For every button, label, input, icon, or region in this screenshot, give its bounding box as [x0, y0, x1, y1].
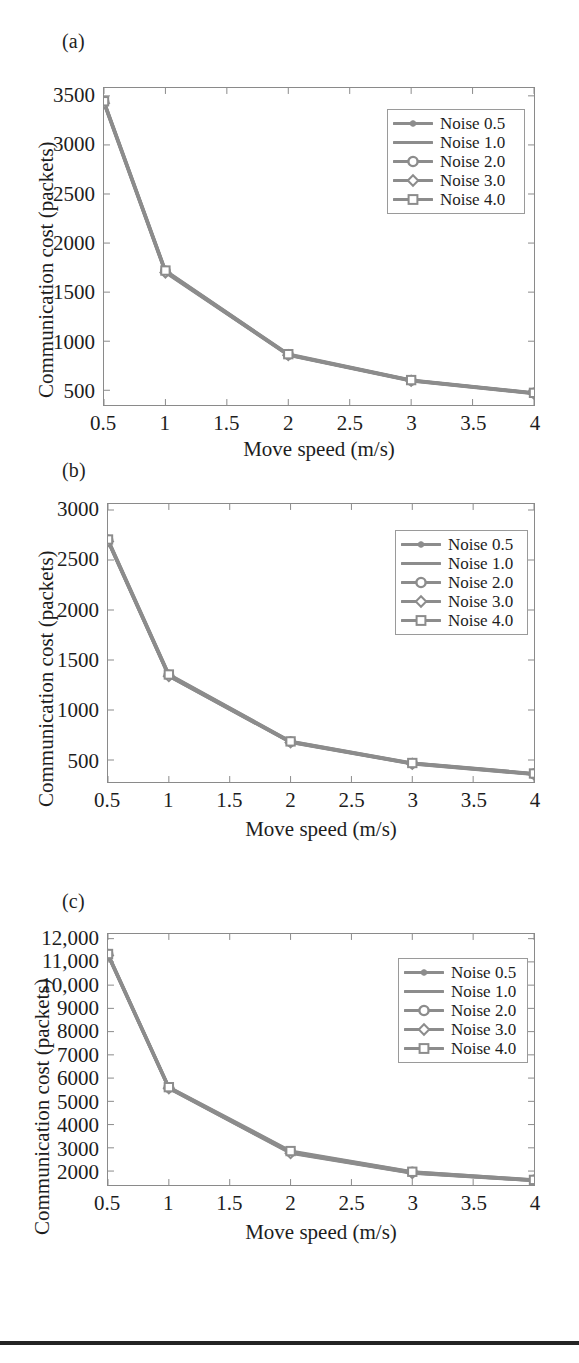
legend-label: Noise 2.0 — [451, 1001, 516, 1020]
y-tick-label: 1000 — [0, 331, 95, 352]
legend-label: Noise 3.0 — [440, 171, 505, 190]
x-tick-label: 1 — [163, 1193, 174, 1214]
y-tick-label: 2000 — [0, 1161, 99, 1182]
legend-item: Noise 1.0 — [401, 554, 521, 573]
x-tick-label: 3 — [406, 413, 417, 434]
y-tick-label: 3000 — [0, 499, 99, 520]
legend-item: Noise 1.0 — [393, 133, 518, 152]
legend-item: Noise 2.0 — [404, 1001, 521, 1020]
x-tick-label: 1 — [163, 790, 174, 811]
y-tick-label: 1500 — [0, 282, 95, 303]
x-tick-label: 1.5 — [216, 1193, 242, 1214]
x-tick-label: 2.5 — [338, 790, 364, 811]
x-tick-label: 2 — [285, 1193, 296, 1214]
legend: Noise 0.5Noise 1.0Noise 2.0Noise 3.0Nois… — [395, 530, 528, 635]
legend-marker-none-icon — [404, 982, 444, 1001]
y-tick-label: 3000 — [0, 1138, 99, 1159]
legend-item: Noise 4.0 — [404, 1039, 521, 1058]
y-tick-label: 2000 — [0, 233, 95, 254]
legend-label: Noise 3.0 — [451, 1020, 516, 1039]
x-tick-label: 3 — [407, 790, 418, 811]
x-tick-label: 0.5 — [94, 1193, 120, 1214]
legend-label: Noise 0.5 — [451, 963, 516, 982]
legend-label: Noise 4.0 — [440, 190, 505, 209]
y-tick-label: 3000 — [0, 134, 95, 155]
legend-label: Noise 0.5 — [440, 114, 505, 133]
y-tick-label: 5000 — [0, 1091, 99, 1112]
chart-panel-c: (c) Communication cost (packets) Move sp… — [0, 890, 579, 1320]
legend-label: Noise 1.0 — [440, 133, 505, 152]
legend-marker-none-icon — [401, 554, 441, 573]
legend-item: Noise 0.5 — [393, 114, 518, 133]
x-tick-label: 1.5 — [213, 413, 239, 434]
x-tick-label: 0.5 — [90, 413, 116, 434]
x-tick-label: 3 — [407, 1193, 418, 1214]
legend: Noise 0.5Noise 1.0Noise 2.0Noise 3.0Nois… — [387, 109, 525, 214]
legend-item: Noise 2.0 — [393, 152, 518, 171]
x-tick-label: 2.5 — [337, 413, 363, 434]
y-tick-label: 2500 — [0, 183, 95, 204]
legend-item: Noise 1.0 — [404, 982, 521, 1001]
y-tick-label: 12,000 — [0, 927, 99, 948]
y-tick-label: 500 — [0, 750, 99, 771]
y-tick-label: 1000 — [0, 700, 99, 721]
legend-item: Noise 2.0 — [401, 573, 521, 592]
legend-marker-diamond-icon — [401, 592, 441, 611]
legend-marker-square-icon — [401, 611, 441, 630]
legend-item: Noise 3.0 — [401, 592, 521, 611]
legend-marker-circle-icon — [401, 573, 441, 592]
legend-marker-square-icon — [393, 190, 433, 209]
x-tick-label: 1 — [159, 413, 170, 434]
x-axis-label-b: Move speed (m/s) — [107, 817, 535, 842]
legend-label: Noise 0.5 — [448, 535, 513, 554]
x-tick-label: 2 — [283, 413, 294, 434]
legend-marker-dot-icon — [401, 535, 441, 554]
y-tick-label: 3500 — [0, 84, 95, 105]
y-tick-label: 1500 — [0, 650, 99, 671]
bottom-rule — [0, 1341, 579, 1345]
x-tick-label: 2.5 — [338, 1193, 364, 1214]
panel-label-c: (c) — [62, 890, 85, 913]
legend-label: Noise 2.0 — [440, 152, 505, 171]
legend-item: Noise 0.5 — [401, 535, 521, 554]
legend-label: Noise 2.0 — [448, 573, 513, 592]
y-tick-label: 2000 — [0, 599, 99, 620]
legend-label: Noise 4.0 — [451, 1039, 516, 1058]
legend: Noise 0.5Noise 1.0Noise 2.0Noise 3.0Nois… — [398, 958, 528, 1063]
y-axis-label-a: Communication cost (packets) — [34, 141, 59, 398]
legend-item: Noise 0.5 — [404, 963, 521, 982]
legend-item: Noise 4.0 — [401, 611, 521, 630]
panel-label-a: (a) — [62, 30, 85, 53]
y-tick-label: 7000 — [0, 1044, 99, 1065]
x-tick-label: 4 — [530, 413, 541, 434]
legend-marker-diamond-icon — [404, 1020, 444, 1039]
legend-marker-dot-icon — [404, 963, 444, 982]
chart-panel-b: (b) Communication cost (packets) Move sp… — [0, 455, 579, 890]
y-tick-label: 500 — [0, 381, 95, 402]
legend-marker-diamond-icon — [393, 171, 433, 190]
x-tick-label: 0.5 — [94, 790, 120, 811]
legend-label: Noise 3.0 — [448, 592, 513, 611]
y-tick-label: 9000 — [0, 997, 99, 1018]
legend-label: Noise 4.0 — [448, 611, 513, 630]
legend-label: Noise 1.0 — [448, 554, 513, 573]
panel-label-b: (b) — [62, 459, 86, 482]
legend-marker-none-icon — [393, 133, 433, 152]
legend-label: Noise 1.0 — [451, 982, 516, 1001]
y-tick-label: 10,000 — [0, 974, 99, 995]
legend-marker-circle-icon — [404, 1001, 444, 1020]
x-tick-label: 3.5 — [461, 790, 487, 811]
chart-panel-a: (a) Communication cost (packets) Move sp… — [0, 0, 579, 455]
y-tick-label: 4000 — [0, 1115, 99, 1136]
legend-marker-dot-icon — [393, 114, 433, 133]
x-tick-label: 2 — [285, 790, 296, 811]
x-tick-label: 3.5 — [461, 1193, 487, 1214]
x-tick-label: 1.5 — [216, 790, 242, 811]
x-axis-label-c: Move speed (m/s) — [107, 1220, 535, 1245]
legend-item: Noise 3.0 — [393, 171, 518, 190]
y-tick-label: 2500 — [0, 549, 99, 570]
legend-marker-circle-icon — [393, 152, 433, 171]
legend-item: Noise 4.0 — [393, 190, 518, 209]
y-tick-label: 6000 — [0, 1068, 99, 1089]
x-tick-label: 3.5 — [460, 413, 486, 434]
